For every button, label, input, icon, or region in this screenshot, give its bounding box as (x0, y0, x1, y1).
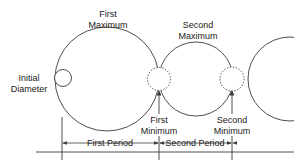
label-second-minimum: Second Minimum (201, 115, 263, 136)
diagram-canvas: First Maximum Second Maximum Initial Dia… (0, 0, 294, 166)
second-minimum-circle (220, 67, 244, 91)
label-first-maximum-line2: Maximum (80, 20, 136, 31)
label-first-minimum: First Minimum (130, 115, 188, 136)
first-minimum-circle (148, 68, 171, 91)
third-period-start-marker (232, 141, 237, 145)
label-initial-diameter-line1: Initial (2, 73, 56, 84)
label-first-maximum-line1: First (80, 9, 136, 20)
label-initial-diameter-line2: Diameter (2, 84, 56, 95)
label-first-period: First Period (75, 138, 145, 149)
label-initial-diameter: Initial Diameter (2, 73, 56, 94)
label-second-period: Second Period (160, 138, 230, 149)
third-maximum-circle-partial (248, 37, 294, 121)
label-second-maximum-line1: Second (168, 20, 228, 31)
initial-diameter-circle (55, 70, 72, 87)
label-second-minimum-line1: Second (201, 115, 263, 126)
label-second-maximum: Second Maximum (168, 20, 228, 41)
label-first-minimum-line2: Minimum (130, 126, 188, 137)
label-first-maximum: First Maximum (80, 9, 136, 30)
label-second-minimum-line2: Minimum (201, 126, 263, 137)
label-first-minimum-line1: First (130, 115, 188, 126)
label-second-maximum-line2: Maximum (168, 31, 228, 42)
